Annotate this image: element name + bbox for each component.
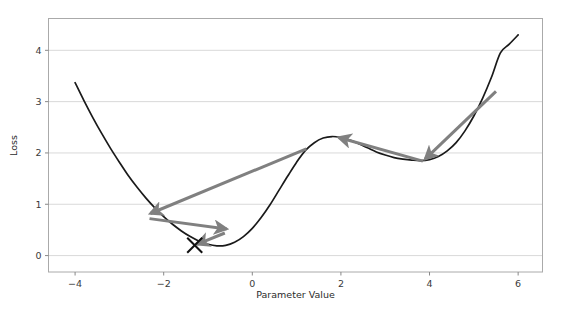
- y-tick-label: 3: [35, 96, 41, 107]
- x-axis-label: Parameter Value: [256, 289, 335, 300]
- x-tick-label: 2: [338, 278, 344, 289]
- loss-landscape-figure: −4−20246 01234 Parameter Value Loss: [0, 0, 561, 310]
- y-tick-label: 1: [35, 199, 41, 210]
- y-tick-label: 4: [35, 45, 41, 56]
- x-tick-label: −4: [68, 278, 82, 289]
- chart-canvas: −4−20246 01234 Parameter Value Loss: [0, 0, 561, 310]
- y-tick-label: 0: [35, 250, 41, 261]
- x-tick-label: 0: [249, 278, 255, 289]
- x-tick-label: 6: [515, 278, 521, 289]
- plot-background: [0, 0, 561, 310]
- y-axis-label: Loss: [8, 135, 19, 156]
- y-tick-label: 2: [35, 147, 41, 158]
- x-tick-label: 4: [426, 278, 432, 289]
- x-tick-label: −2: [157, 278, 171, 289]
